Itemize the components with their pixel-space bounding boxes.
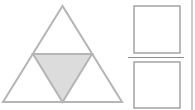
denominator-box[interactable] — [134, 62, 180, 108]
numerator-box[interactable] — [134, 6, 180, 53]
shaded-center-triangle — [33, 54, 92, 102]
diagram-canvas — [0, 0, 195, 110]
